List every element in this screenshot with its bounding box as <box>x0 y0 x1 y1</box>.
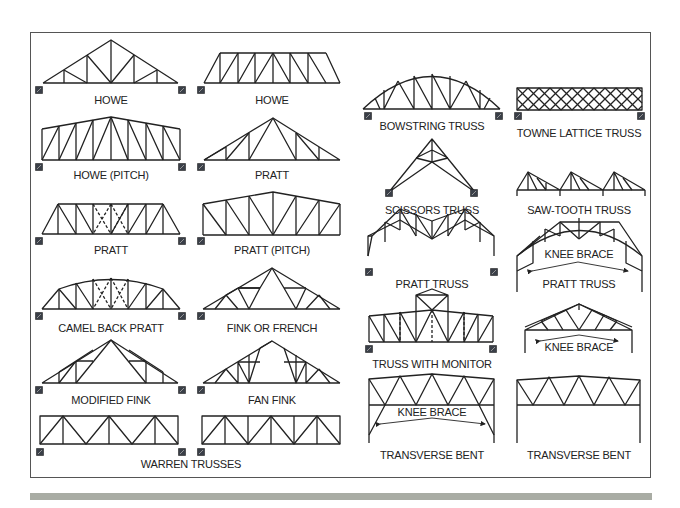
label-pratt-pitch: PRATT (PITCH) <box>234 244 310 256</box>
truss-scissors <box>386 139 478 197</box>
label-transverse-bent-b: TRANSVERSE BENT <box>527 449 631 461</box>
truss-bowstring <box>363 74 503 120</box>
truss-warren-a <box>37 416 186 456</box>
truss-howe-pitch <box>36 117 186 171</box>
truss-fink-or-french <box>198 268 341 320</box>
truss-towne-lattice <box>515 88 645 120</box>
truss-camel-back-pratt <box>36 278 186 320</box>
label-scissors-truss: SCISSORS TRUSS <box>385 204 479 216</box>
label-pratt-roof: PRATT <box>255 169 289 181</box>
label-pratt-flat: PRATT <box>94 244 128 256</box>
label-transverse-bent-a: TRANSVERSE BENT <box>380 449 484 461</box>
label-knee-brace-3: KNEE BRACE <box>398 406 467 418</box>
label-warren-trusses: WARREN TRUSSES <box>141 458 242 470</box>
label-fink-or-french: FINK OR FRENCH <box>227 322 318 334</box>
label-modified-fink: MODIFIED FINK <box>71 394 150 406</box>
truss-warren-b <box>198 416 341 456</box>
label-towne-lattice-truss: TOWNE LATTICE TRUSS <box>517 127 642 139</box>
truss-pratt-truss-arched <box>366 209 498 276</box>
truss-fan-fink <box>198 341 341 394</box>
truss-transverse-bent-b <box>517 376 640 443</box>
truss-howe-roof <box>36 40 186 94</box>
label-fan-fink: FAN FINK <box>248 394 296 406</box>
truss-saw-tooth <box>517 172 645 196</box>
truss-pratt-roof <box>198 118 341 171</box>
label-howe-pitch: HOWE (PITCH) <box>73 169 148 181</box>
label-camel-back-pratt: CAMEL BACK PRATT <box>58 322 164 334</box>
truss-modified-fink <box>36 340 186 394</box>
label-knee-brace-1: KNEE BRACE <box>545 248 614 260</box>
label-howe-flat: HOWE <box>255 94 288 106</box>
label-howe-roof: HOWE <box>94 94 127 106</box>
label-pratt-truss-knee: PRATT TRUSS <box>543 278 616 290</box>
truss-howe-flat <box>198 53 341 94</box>
label-saw-tooth-truss: SAW-TOOTH TRUSS <box>527 204 631 216</box>
label-truss-with-monitor: TRUSS WITH MONITOR <box>372 358 492 370</box>
label-bowstring-truss: BOWSTRING TRUSS <box>380 120 485 132</box>
label-knee-brace-2: KNEE BRACE <box>545 341 614 353</box>
label-pratt-truss-arched: PRATT TRUSS <box>396 278 469 290</box>
truss-pratt-pitch <box>198 192 341 245</box>
truss-truss-with-monitor <box>366 289 497 353</box>
truss-pratt-flat <box>36 204 186 245</box>
